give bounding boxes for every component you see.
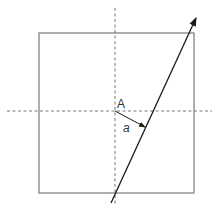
- square: [39, 33, 194, 193]
- distance-label-a: a: [123, 121, 130, 135]
- perpendicular-distance-arrow: [115, 111, 145, 127]
- point-label-A: A: [117, 97, 125, 111]
- diagram-canvas: A a: [0, 0, 213, 207]
